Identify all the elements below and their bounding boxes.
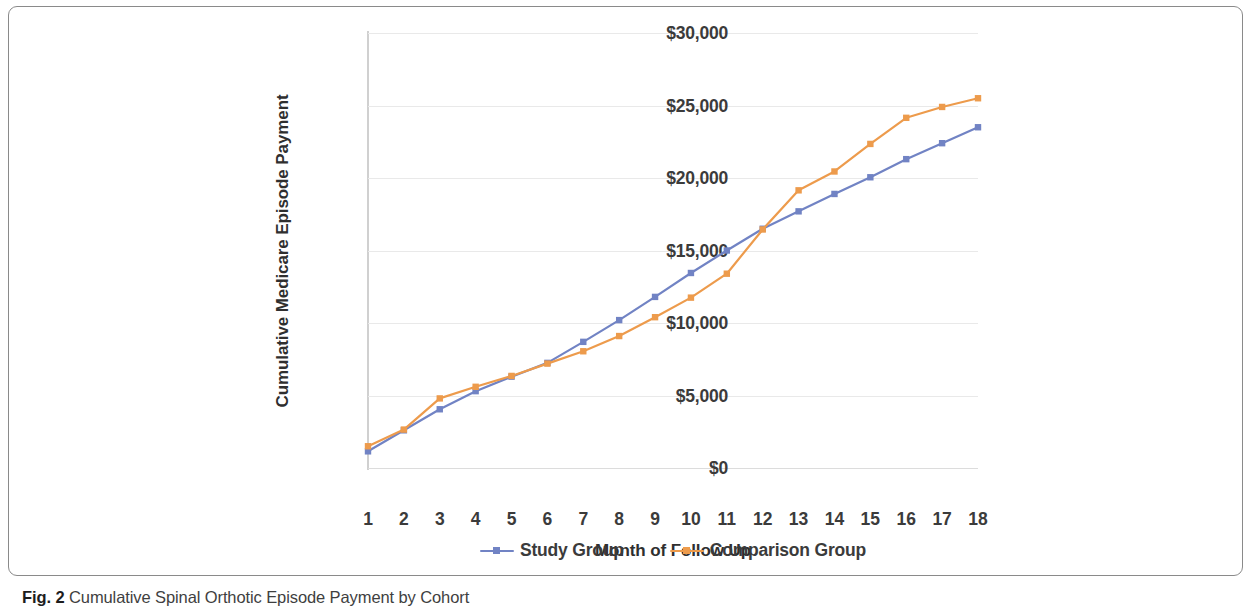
x-tick-label: 5 bbox=[507, 509, 517, 530]
data-point-marker bbox=[472, 384, 478, 390]
legend-item: Study Group bbox=[480, 540, 624, 561]
data-point-marker bbox=[724, 271, 730, 277]
data-point-marker bbox=[975, 95, 981, 101]
x-tick-label: 10 bbox=[681, 509, 700, 530]
data-point-marker bbox=[975, 124, 981, 130]
series-line-study-group bbox=[368, 127, 978, 451]
x-tick-label: 16 bbox=[897, 509, 916, 530]
data-point-marker bbox=[688, 294, 694, 300]
figure-caption-label: Fig. 2 bbox=[22, 588, 65, 606]
x-tick-label: 12 bbox=[753, 509, 772, 530]
data-point-marker bbox=[867, 141, 873, 147]
data-point-marker bbox=[831, 168, 837, 174]
data-point-marker bbox=[580, 339, 586, 345]
x-tick-label: 8 bbox=[614, 509, 624, 530]
chart-area: $30,000$25,000$20,000$15,000$10,000$5,00… bbox=[0, 0, 1251, 580]
data-point-marker bbox=[580, 348, 586, 354]
data-point-marker bbox=[365, 443, 371, 449]
figure-caption: Fig. 2 Cumulative Spinal Orthotic Episod… bbox=[22, 588, 469, 607]
figure-caption-text: Cumulative Spinal Orthotic Episode Payme… bbox=[69, 588, 469, 606]
data-point-marker bbox=[795, 208, 801, 214]
data-point-marker bbox=[544, 360, 550, 366]
x-tick-label: 14 bbox=[825, 509, 844, 530]
data-point-marker bbox=[616, 317, 622, 323]
data-point-marker bbox=[437, 395, 443, 401]
x-tick-label: 3 bbox=[435, 509, 445, 530]
y-axis-title: Cumulative Medicare Episode Payment bbox=[273, 94, 293, 407]
data-point-marker bbox=[688, 270, 694, 276]
legend-item: Comparison Group bbox=[670, 540, 866, 561]
chart-legend: Study GroupComparison Group bbox=[368, 540, 978, 561]
data-point-marker bbox=[831, 191, 837, 197]
data-point-marker bbox=[508, 373, 514, 379]
data-point-marker bbox=[795, 187, 801, 193]
x-axis-baseline bbox=[368, 468, 978, 469]
x-tick-label: 11 bbox=[718, 509, 737, 530]
x-tick-label: 9 bbox=[650, 509, 660, 530]
data-point-marker bbox=[903, 115, 909, 121]
figure-container: $30,000$25,000$20,000$15,000$10,000$5,00… bbox=[0, 0, 1251, 616]
data-point-marker bbox=[652, 294, 658, 300]
legend-label: Study Group bbox=[520, 540, 624, 561]
series-plot-svg bbox=[368, 33, 978, 468]
data-point-marker bbox=[652, 314, 658, 320]
legend-swatch-icon bbox=[670, 545, 704, 557]
data-point-marker bbox=[867, 174, 873, 180]
legend-label: Comparison Group bbox=[710, 540, 866, 561]
x-tick-label: 18 bbox=[968, 509, 987, 530]
data-point-marker bbox=[401, 426, 407, 432]
x-tick-label: 4 bbox=[471, 509, 481, 530]
data-point-marker bbox=[939, 140, 945, 146]
series-line-comparison-group bbox=[368, 98, 978, 446]
data-point-marker bbox=[903, 156, 909, 162]
x-tick-label: 6 bbox=[543, 509, 553, 530]
data-point-marker bbox=[724, 247, 730, 253]
x-tick-label: 17 bbox=[932, 509, 951, 530]
data-point-marker bbox=[437, 406, 443, 412]
x-tick-label: 1 bbox=[363, 509, 373, 530]
x-tick-label: 13 bbox=[789, 509, 808, 530]
data-point-marker bbox=[939, 104, 945, 110]
data-point-marker bbox=[616, 333, 622, 339]
x-tick-label: 7 bbox=[578, 509, 588, 530]
plot-region: $30,000$25,000$20,000$15,000$10,000$5,00… bbox=[368, 33, 978, 468]
x-tick-label: 2 bbox=[399, 509, 409, 530]
x-tick-label: 15 bbox=[861, 509, 880, 530]
legend-swatch-icon bbox=[480, 545, 514, 557]
data-point-marker bbox=[760, 226, 766, 232]
